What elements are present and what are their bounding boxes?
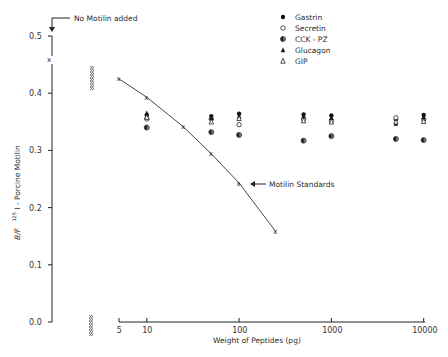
standard-point: x [181,123,185,131]
legend-label: Secretin [295,24,326,33]
no-motilin-point: x [47,56,51,64]
y-tick-label: 0.3 [29,146,42,155]
x-tick-label: 10 [142,326,152,335]
y-axis: 0.00.10.20.30.40.5 [29,32,52,327]
legend-item: Gastrin [281,13,323,22]
y-axis-label: B/F 125 I - Porcine Motilin [9,145,22,240]
standard-point: x [144,94,148,102]
data-point-cck-pz [209,130,214,135]
y-tick-label: 0.5 [29,32,42,41]
legend-label: CCK - PZ [295,35,328,44]
no-motilin-annotation: No Motilin added x [47,14,138,64]
standard-point: x [237,180,241,188]
data-point-cck-pz [301,138,306,143]
data-point-cck-pz [329,134,334,139]
standards-annotation: Motilin Standards [250,180,335,189]
data-point-cck-pz [393,136,398,141]
x-tick-label: 100 [232,326,247,335]
y-tick-label: 0.0 [29,318,42,327]
data-point-cck-pz [421,138,426,143]
peptide-points [144,111,426,144]
x-tick-label: 5 [117,326,122,335]
legend-item: CCK - PZ [281,35,328,44]
x-axis-label: Weight of Peptides (pg) [213,336,301,345]
standard-point: x [209,150,213,158]
data-point-secretin [237,122,241,126]
legend: GastrinSecretinCCK - PZGlucagonGIP [281,13,331,66]
legend-item: Secretin [281,24,326,33]
legend-label: GIP [295,57,308,66]
legend-label: Glucagon [295,46,331,55]
standard-point: x [273,228,277,236]
svg-text:No Motilin added: No Motilin added [74,14,138,23]
y-tick-label: 0.4 [29,89,42,98]
chart: 0.00.10.20.30.40.5 B/F 125 I - Porcine M… [0,0,448,357]
data-point-cck-pz [144,125,149,130]
svg-text:B/F 125 I - Porcin: B/F 125 I - Porcine Motilin [9,145,22,240]
standard-point: x [117,75,121,83]
y-tick-label: 0.2 [29,204,42,213]
y-tick-label: 0.1 [29,261,42,270]
x-tick-label: 1000 [322,326,342,335]
legend-item: Glucagon [281,46,331,55]
axis-break-bottom [89,315,93,336]
svg-text:Motilin Standards: Motilin Standards [269,180,335,189]
x-tick-label: 10000 [412,326,437,335]
axis-break-top [90,66,94,90]
motilin-standards-curve: xxxxxx [117,75,278,236]
data-point-cck-pz [237,132,242,137]
legend-item: GIP [281,57,308,66]
legend-label: Gastrin [295,13,322,22]
x-axis: 510100100010000 Weight of Peptides (pg) [117,318,438,345]
